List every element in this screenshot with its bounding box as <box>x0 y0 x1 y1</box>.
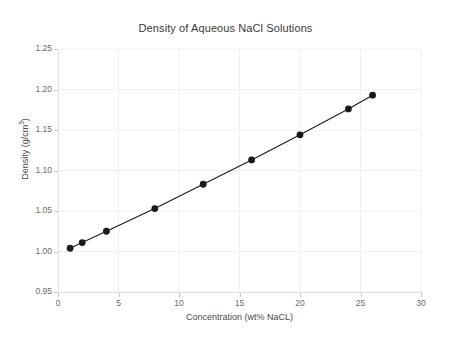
y-tick-label: 1.00 <box>26 246 52 256</box>
y-axis-title: Density (g/cm3) <box>18 89 30 209</box>
x-tick-mark <box>300 293 301 297</box>
y-tick-mark <box>54 211 58 212</box>
x-tick-label: 25 <box>346 298 376 308</box>
y-tick-mark <box>54 49 58 50</box>
chart-figure: Density of Aqueous NaCl Solutions 0.951.… <box>0 0 451 349</box>
x-tick-mark <box>421 293 422 297</box>
x-tick-label: 0 <box>43 298 73 308</box>
y-tick-mark <box>54 252 58 253</box>
x-tick-mark <box>361 293 362 297</box>
x-tick-label: 20 <box>285 298 315 308</box>
y-axis-title-tail: ) <box>20 118 30 121</box>
x-tick-label: 30 <box>406 298 436 308</box>
x-tick-label: 10 <box>164 298 194 308</box>
y-axis-title-exponent: 3 <box>18 121 25 125</box>
x-tick-mark <box>58 293 59 297</box>
x-tick-mark <box>119 293 120 297</box>
x-axis-title: Concentration (wt% NaCL) <box>58 312 421 322</box>
x-tick-mark <box>240 293 241 297</box>
y-tick-label: 0.95 <box>26 286 52 296</box>
x-tick-label: 15 <box>225 298 255 308</box>
y-axis-title-text: Density (g/cm <box>20 125 30 180</box>
data-series-line <box>58 49 421 292</box>
y-tick-mark <box>54 171 58 172</box>
plot-area <box>58 49 421 292</box>
y-tick-mark <box>54 90 58 91</box>
x-tick-label: 5 <box>104 298 134 308</box>
y-tick-label: 1.25 <box>26 43 52 53</box>
x-tick-mark <box>179 293 180 297</box>
chart-title: Density of Aqueous NaCl Solutions <box>0 22 451 34</box>
y-tick-mark <box>54 130 58 131</box>
